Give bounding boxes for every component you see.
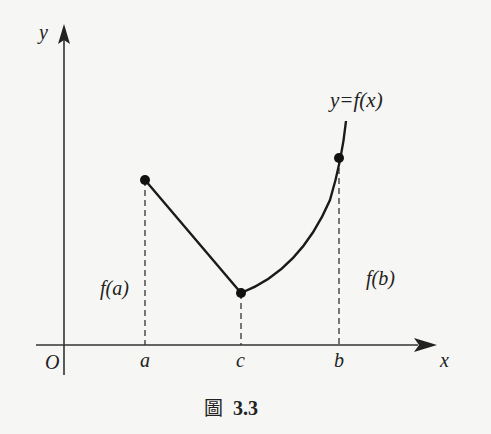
- caption-prefix: 圖: [204, 397, 223, 419]
- point-b: [334, 153, 344, 163]
- y-axis-label: y: [39, 22, 48, 42]
- origin-label: O: [45, 352, 59, 372]
- function-label: y=f(x): [330, 90, 383, 111]
- f-b-label: f(b): [366, 268, 395, 288]
- point-c: [236, 288, 246, 298]
- figure-caption: 圖3.3: [204, 398, 258, 418]
- x-axis-label: x: [440, 350, 449, 370]
- f-a-label: f(a): [100, 278, 129, 298]
- diagram-canvas: [0, 0, 491, 434]
- point-a: [140, 175, 150, 185]
- caption-number: 3.3: [233, 397, 258, 419]
- tick-label-c: c: [236, 350, 245, 370]
- tick-label-a: a: [140, 350, 150, 370]
- function-curve: [145, 121, 346, 293]
- tick-label-b: b: [334, 350, 344, 370]
